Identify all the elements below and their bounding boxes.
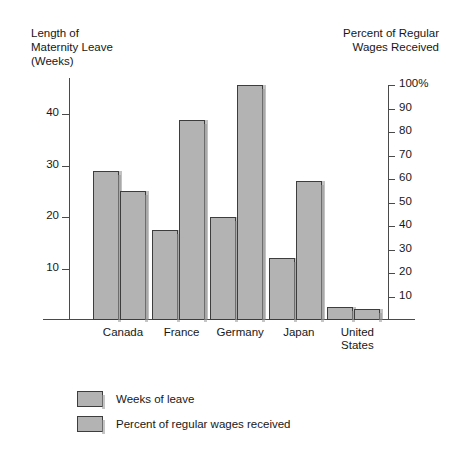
bar-weeks (93, 171, 119, 320)
bar-group (210, 78, 270, 320)
left-axis-tick-label: 30 (46, 158, 59, 170)
right-axis-title: Percent of Regular Wages Received (343, 26, 439, 54)
bar-group (93, 78, 153, 320)
legend-label: Weeks of leave (116, 393, 194, 405)
bar-weeks (269, 258, 295, 320)
legend-item: Percent of regular wages received (77, 411, 291, 436)
right-axis-tick (388, 226, 395, 227)
bar-group (327, 78, 387, 320)
right-axis-tick (388, 156, 395, 157)
right-axis-tick-label: 100% (399, 77, 428, 89)
legend-swatch (77, 391, 103, 407)
category-label: United States (312, 326, 402, 352)
right-axis-tick-label: 50 (399, 195, 412, 207)
left-axis-tick (62, 166, 69, 167)
bar-group (269, 78, 329, 320)
right-axis-tick (388, 250, 395, 251)
bar-weeks (152, 230, 178, 320)
bar-percent (120, 191, 146, 320)
right-axis-tick-label: 40 (399, 218, 412, 230)
right-axis-tick (388, 203, 395, 204)
right-axis-tick-label: 20 (399, 265, 412, 277)
bar-percent (237, 85, 263, 320)
right-axis-tick (388, 109, 395, 110)
bar-group (152, 78, 212, 320)
left-axis-tick-label: 20 (46, 209, 59, 221)
right-axis-tick (388, 297, 395, 298)
legend-swatch (77, 416, 103, 432)
right-axis-tick-label: 90 (399, 101, 412, 113)
left-axis-title: Length of Maternity Leave (Weeks) (31, 26, 113, 68)
left-axis-tick (62, 114, 69, 115)
legend-item: Weeks of leave (77, 386, 291, 411)
right-axis-tick-label: 60 (399, 171, 412, 183)
bar-weeks (210, 217, 236, 320)
right-axis-tick-label: 70 (399, 148, 412, 160)
right-axis-tick-label: 30 (399, 242, 412, 254)
right-axis-tick (388, 179, 395, 180)
left-axis-tick-label: 10 (46, 261, 59, 273)
left-axis-tick (62, 269, 69, 270)
right-axis-tick-label: 80 (399, 124, 412, 136)
right-axis-tick (388, 85, 395, 86)
bar-percent (179, 120, 205, 320)
bar-percent (296, 181, 322, 320)
left-axis-line (69, 78, 70, 320)
chart-legend: Weeks of leavePercent of regular wages r… (77, 386, 291, 436)
right-axis-tick (388, 132, 395, 133)
bar-weeks (327, 307, 353, 320)
maternity-leave-bar-chart: Length of Maternity Leave (Weeks) Percen… (0, 0, 463, 456)
plot-area: 10203040 102030405060708090100% CanadaFr… (69, 78, 389, 320)
bar-percent (354, 309, 380, 320)
right-axis-tick-label: 10 (399, 289, 412, 301)
legend-label: Percent of regular wages received (116, 418, 291, 430)
left-axis-tick (62, 217, 69, 218)
left-axis-tick-label: 40 (46, 106, 59, 118)
right-axis-tick (388, 273, 395, 274)
